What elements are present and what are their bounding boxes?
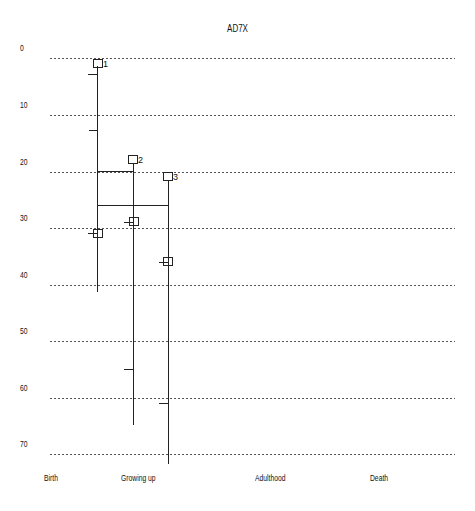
gridlines (50, 59, 455, 455)
timeline-chart: AD7X 0 10 20 30 40 50 60 70 Birth Growin… (0, 0, 475, 511)
series-1-label: 1 (103, 59, 108, 69)
plot-area: 1 2 3 (0, 0, 475, 511)
series-3-label: 3 (173, 172, 178, 182)
series-2-label: 2 (138, 155, 143, 165)
series-2-box (129, 156, 138, 164)
series-3-box (164, 173, 173, 181)
